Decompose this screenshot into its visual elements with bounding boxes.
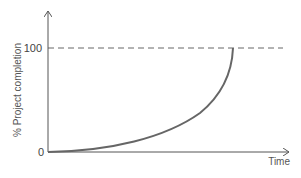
chart: 100 0 Time % Project completion xyxy=(0,0,301,178)
y-tick-0: 0 xyxy=(38,146,44,158)
y-axis-label: % Project completion xyxy=(12,43,23,137)
completion-curve xyxy=(48,48,233,152)
x-axis-label: Time xyxy=(268,156,290,167)
y-tick-100: 100 xyxy=(24,42,42,54)
